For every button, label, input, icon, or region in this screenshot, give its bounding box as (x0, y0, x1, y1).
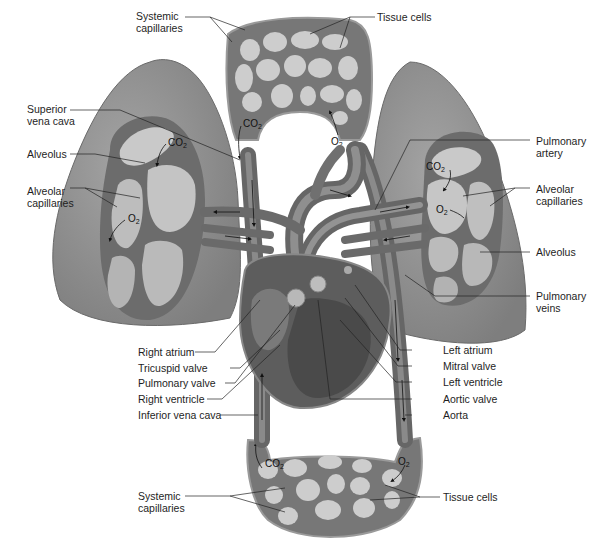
label-tissue-cells-bottom: Tissue cells (443, 491, 497, 503)
label-right-ventricle: Right ventricle (138, 393, 205, 405)
label-aorta: Aorta (443, 409, 468, 421)
label-superior-vena-cava: Superior vena cava (27, 103, 75, 127)
label-tissue-cells-top: Tissue cells (377, 11, 431, 23)
label-alveolar-capillaries-right: Alveolar capillaries (536, 183, 583, 207)
label-alveolar-capillaries-left: Alveolar capillaries (27, 185, 74, 209)
label-systemic-capillaries-bottom: Systemic capillaries (138, 490, 185, 514)
label-inferior-vena-cava: Inferior vena cava (138, 409, 221, 421)
circulation-illustration: CO2 O2 CO2 O2 (0, 0, 611, 555)
label-aortic-valve: Aortic valve (443, 393, 497, 405)
capillary-bed-top: CO2 O2 (226, 18, 372, 158)
left-lung (53, 60, 241, 326)
label-left-ventricle: Left ventricle (443, 376, 503, 388)
label-mitral-valve: Mitral valve (443, 360, 496, 372)
label-pulmonary-valve: Pulmonary valve (138, 377, 216, 389)
label-left-atrium: Left atrium (443, 344, 493, 356)
label-pulmonary-veins: Pulmonary veins (536, 290, 586, 314)
label-pulmonary-artery: Pulmonary artery (536, 135, 586, 159)
label-systemic-capillaries-top: Systemic capillaries (136, 10, 183, 34)
capillary-bed-bottom: CO2 O2 (247, 438, 421, 537)
label-tricuspid-valve: Tricuspid valve (138, 362, 208, 374)
label-alveolus-right: Alveolus (536, 246, 576, 258)
label-alveolus-left: Alveolus (27, 148, 67, 160)
heart (240, 254, 391, 408)
label-right-atrium: Right atrium (138, 346, 195, 358)
